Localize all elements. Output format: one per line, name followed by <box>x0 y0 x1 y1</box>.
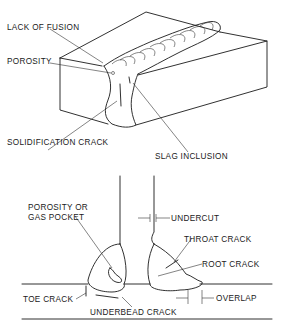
underbead-crack-mark <box>96 295 118 298</box>
label-root-crack: ROOT CRACK <box>202 260 260 269</box>
slag-inclusion-mark <box>129 77 130 83</box>
label-porosity-or-gas-pocket-1: POROSITY OR <box>28 203 88 212</box>
label-overlap: OVERLAP <box>216 294 257 303</box>
label-lack-of-fusion: LACK OF FUSION <box>7 23 79 32</box>
solidification-crack-mark <box>120 84 121 106</box>
label-underbead-crack: UNDERBEAD CRACK <box>90 308 177 317</box>
label-throat-crack: THROAT CRACK <box>184 235 252 244</box>
weld-defects-diagram: LACK OF FUSION POROSITY SOLIDIFICATION C… <box>0 0 281 331</box>
label-solidification-crack: SOLIDIFICATION CRACK <box>7 138 109 147</box>
label-porosity-or-gas-pocket-2: GAS POCKET <box>28 213 84 222</box>
label-slag-inclusion: SLAG INCLUSION <box>155 152 228 161</box>
porosity-mark <box>112 72 115 75</box>
label-porosity: POROSITY <box>7 57 52 66</box>
label-toe-crack: TOE CRACK <box>23 295 74 304</box>
label-undercut: UNDERCUT <box>171 214 219 223</box>
weld-block-illustration <box>48 12 267 152</box>
